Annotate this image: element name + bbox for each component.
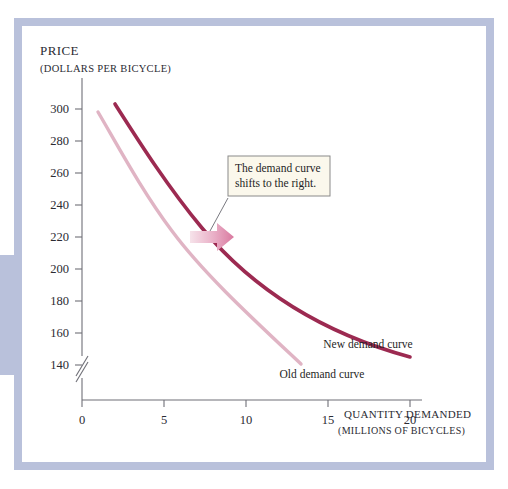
y-axis-title: PRICE	[40, 43, 79, 58]
left-edge-tab	[0, 255, 22, 375]
x-tick-group	[82, 400, 410, 407]
y-tick-label: 300	[50, 102, 69, 116]
x-tick-label: 15	[322, 413, 335, 427]
x-tick-label: 10	[240, 413, 253, 427]
y-tick-label: 260	[50, 166, 69, 180]
callout-text-line-1: The demand curve	[235, 162, 321, 174]
callout-text-line-2: shifts to the right.	[235, 177, 316, 190]
y-tick-label: 220	[50, 230, 69, 244]
old-demand-curve-label: Old demand curve	[280, 368, 365, 380]
y-tick-label: 180	[50, 294, 69, 308]
callout-box: The demand curve shifts to the right.	[228, 156, 330, 196]
y-tick-label: 240	[50, 198, 69, 212]
y-tick-label: 200	[50, 262, 69, 276]
y-tick-labels: 300 280 260 240 220 200 180 160 140	[50, 102, 69, 372]
x-axis-units: (MILLIONS OF BICYCLES)	[338, 425, 465, 437]
demand-curve-chart: PRICE (DOLLARS PER BICYCLE) QUANTITY DEM…	[22, 26, 486, 462]
x-tick-label: 5	[161, 413, 167, 427]
figure-root: PRICE (DOLLARS PER BICYCLE) QUANTITY DEM…	[0, 0, 508, 489]
y-tick-label: 160	[50, 326, 69, 340]
y-axis-units: (DOLLARS PER BICYCLE)	[40, 63, 171, 75]
x-tick-label: 0	[79, 413, 85, 427]
y-tick-label: 280	[50, 134, 69, 148]
x-tick-label: 20	[404, 413, 417, 427]
y-tick-group	[75, 109, 82, 365]
new-demand-curve-label: New demand curve	[323, 338, 412, 350]
new-demand-curve	[115, 104, 410, 357]
y-tick-label: 140	[50, 358, 69, 372]
